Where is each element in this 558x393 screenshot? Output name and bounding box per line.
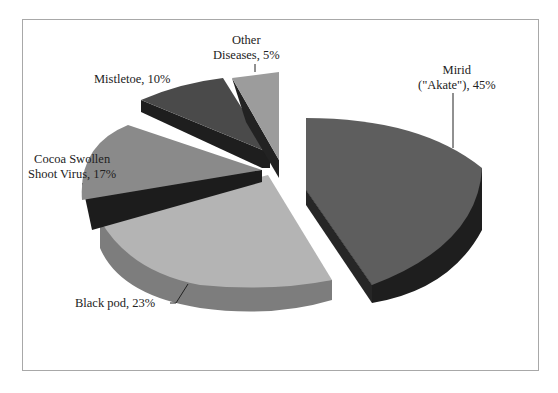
label-mirid-line2: ("Akate"), 45%	[418, 78, 496, 93]
slice-mirid	[306, 118, 482, 303]
label-mirid-line1: Mirid	[418, 63, 496, 78]
label-other-line1: Other	[213, 33, 280, 48]
label-mistletoe: Mistletoe, 10%	[94, 72, 170, 87]
label-blackpod: Black pod, 23%	[75, 296, 155, 311]
label-cssv: Cocoa Swollen Shoot Virus, 17%	[28, 152, 116, 182]
label-other-line2: Diseases, 5%	[213, 48, 280, 63]
label-other: Other Diseases, 5%	[213, 33, 280, 63]
label-cssv-line2: Shoot Virus, 17%	[28, 167, 116, 182]
label-mirid: Mirid ("Akate"), 45%	[418, 63, 496, 93]
label-cssv-line1: Cocoa Swollen	[28, 152, 116, 167]
